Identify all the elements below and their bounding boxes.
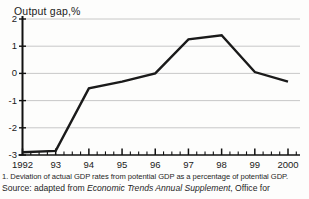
y-tick-label: -1: [1, 96, 17, 105]
x-tick-label: 96: [138, 160, 172, 170]
x-tick-label: 94: [72, 160, 106, 170]
x-tick-label: 2000: [271, 160, 305, 170]
x-tick-label: 98: [205, 160, 239, 170]
chart-notes: 1. Deviation of actual GDP rates from po…: [2, 172, 309, 194]
footnote-1: 1. Deviation of actual GDP rates from po…: [2, 172, 309, 183]
chart-svg: [0, 0, 309, 175]
y-tick-label: 1: [1, 41, 17, 50]
y-tick-label: 0: [1, 68, 17, 77]
chart-plot-area: 210-1-2-3 1992939495969798992000: [0, 0, 309, 175]
y-tick-label: -3: [1, 150, 17, 159]
chart-axes: [19, 16, 301, 155]
y-tick-label: -2: [1, 123, 17, 132]
x-tick-label: 97: [171, 160, 205, 170]
x-tick-label: 93: [39, 160, 73, 170]
source-suffix: , Office for: [230, 183, 269, 193]
chart-axis-ticks: [19, 19, 296, 155]
y-tick-label: 2: [1, 14, 17, 23]
source-prefix: Source: adapted from: [2, 183, 87, 193]
chart-series-output-gap: [23, 35, 289, 152]
x-tick-label: 99: [238, 160, 272, 170]
source-line: Source: adapted from Economic Trends Ann…: [2, 183, 309, 195]
x-tick-label: 1992: [6, 160, 40, 170]
x-tick-label: 95: [105, 160, 139, 170]
source-publication: Economic Trends Annual Supplement: [87, 183, 230, 193]
